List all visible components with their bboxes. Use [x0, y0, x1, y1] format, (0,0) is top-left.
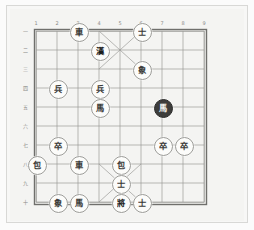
file-label-1: 1	[29, 20, 43, 26]
piece-glyph: 象	[138, 66, 146, 74]
piece-glyph: 將	[117, 199, 125, 207]
pawn-file7-rank7[interactable]: 卒	[154, 137, 173, 156]
piece-glyph: 漢	[96, 47, 104, 55]
rank-label-3: 三	[20, 66, 30, 72]
horse-file4-rank5[interactable]: 馬	[91, 99, 110, 118]
elephant-file2-rank10[interactable]: 象	[49, 194, 68, 213]
rank-label-10: 十	[20, 199, 30, 205]
piece-glyph: 馬	[75, 199, 83, 207]
cannon-file5-rank8[interactable]: 包	[112, 156, 131, 175]
rank-label-4: 四	[20, 85, 30, 91]
chariot-file3-rank8[interactable]: 車	[70, 156, 89, 175]
file-label-4: 4	[92, 20, 106, 26]
han-marker-file4-rank2[interactable]: 漢	[91, 42, 110, 61]
piece-glyph: 車	[75, 28, 83, 36]
piece-glyph: 卒	[159, 142, 167, 150]
rank-label-1: 一	[20, 28, 30, 34]
file-label-7: 7	[155, 20, 169, 26]
rank-label-7: 七	[20, 142, 30, 148]
elephant-file6-rank3[interactable]: 象	[133, 61, 152, 80]
piece-glyph: 兵	[54, 85, 62, 93]
piece-glyph: 象	[54, 199, 62, 207]
piece-glyph: 士	[138, 28, 146, 36]
piece-glyph: 車	[75, 161, 83, 169]
piece-glyph: 兵	[96, 85, 104, 93]
rank-label-5: 五	[20, 104, 30, 110]
pawn-file2-rank7[interactable]: 卒	[49, 137, 68, 156]
general-file5-rank10[interactable]: 將	[112, 194, 131, 213]
rank-label-6: 六	[20, 123, 30, 129]
pawn-file8-rank7[interactable]: 卒	[175, 137, 194, 156]
horse-dark-file7-rank5[interactable]: 馬	[154, 99, 173, 118]
horse-file3-rank10[interactable]: 馬	[70, 194, 89, 213]
piece-glyph: 卒	[54, 142, 62, 150]
soldier-file2-rank4[interactable]: 兵	[49, 80, 68, 99]
xiangqi-diagram: 1 2 3 4 5 6 7 8 9 一 二 三 四 五 六 七 八 九 十 車士…	[0, 0, 254, 230]
piece-glyph: 卒	[180, 142, 188, 150]
file-label-5: 5	[113, 20, 127, 26]
file-label-9: 9	[197, 20, 211, 26]
file-label-8: 8	[176, 20, 190, 26]
piece-glyph: 包	[117, 161, 125, 169]
cannon-file1-rank8[interactable]: 包	[28, 156, 47, 175]
piece-glyph: 馬	[96, 104, 104, 112]
advisor-file5-rank9[interactable]: 士	[112, 175, 131, 194]
xiangqi-board[interactable]: 1 2 3 4 5 6 7 8 9 一 二 三 四 五 六 七 八 九 十 車士…	[10, 9, 244, 221]
advisor-file6-rank1[interactable]: 士	[133, 23, 152, 42]
rank-label-2: 二	[20, 47, 30, 53]
piece-glyph: 馬	[159, 104, 167, 112]
piece-glyph: 包	[33, 161, 41, 169]
file-label-2: 2	[50, 20, 64, 26]
piece-glyph: 士	[117, 180, 125, 188]
chariot-black-file3-rank1[interactable]: 車	[70, 23, 89, 42]
soldier-file4-rank4[interactable]: 兵	[91, 80, 110, 99]
advisor-file6-rank10[interactable]: 士	[133, 194, 152, 213]
piece-glyph: 士	[138, 199, 146, 207]
rank-label-9: 九	[20, 180, 30, 186]
